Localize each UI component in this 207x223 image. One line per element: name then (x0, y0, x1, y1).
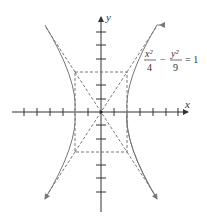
hyperbola-diagram: y x x² 4 − y² 9 = 1 (0, 0, 207, 223)
equation-label: x² 4 − y² 9 = 1 (144, 48, 198, 73)
svg-text:4: 4 (147, 62, 152, 73)
svg-text:= 1: = 1 (185, 54, 198, 65)
svg-text:−: − (160, 54, 166, 65)
svg-text:x²: x² (144, 48, 153, 59)
y-axis-label: y (105, 11, 111, 23)
svg-text:9: 9 (173, 62, 178, 73)
svg-text:y²: y² (170, 48, 179, 59)
x-axis-label: x (184, 98, 190, 110)
